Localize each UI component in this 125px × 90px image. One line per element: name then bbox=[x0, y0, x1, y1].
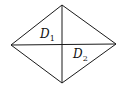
rhombus-diagram: D1 D2 bbox=[0, 0, 125, 90]
diagonal-d2 bbox=[11, 44, 116, 45]
label-d2: D2 bbox=[72, 47, 88, 63]
label-d1: D1 bbox=[39, 27, 55, 43]
